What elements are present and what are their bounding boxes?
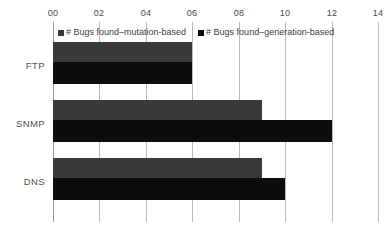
legend-swatch-icon-generation-based [198, 30, 204, 36]
bar-snmp-generation-based [53, 120, 332, 142]
gridline-14 [378, 22, 379, 222]
category-label-ftp: FTP [26, 60, 45, 71]
x-tick-label-10: 10 [280, 8, 291, 18]
x-tick-label-6: 06 [187, 8, 198, 18]
bar-chart: 00 02 04 06 08 10 12 14 FTP SNMP DNS [0, 0, 392, 230]
x-tick-label-8: 08 [234, 8, 245, 18]
x-tick-label-2: 02 [94, 8, 105, 18]
bar-dns-mutation-based [53, 158, 262, 178]
x-tick-label-4: 04 [141, 8, 152, 18]
chart-legend: # Bugs found–mutation-based # Bugs found… [58, 28, 334, 37]
bar-snmp-mutation-based [53, 100, 262, 120]
bar-dns-generation-based [53, 178, 285, 200]
legend-label-generation-based: # Bugs found–generation-based [206, 28, 334, 37]
x-tick-label-12: 12 [327, 8, 338, 18]
legend-entry-generation-based: # Bugs found–generation-based [198, 28, 334, 37]
legend-swatch-icon-mutation-based [58, 30, 64, 36]
gridline-12 [332, 22, 333, 222]
bar-ftp-generation-based [53, 62, 192, 84]
x-tick-label-14: 14 [373, 8, 384, 18]
legend-entry-mutation-based: # Bugs found–mutation-based [58, 28, 186, 37]
category-label-snmp: SNMP [16, 118, 45, 129]
bar-ftp-mutation-based [53, 42, 192, 62]
legend-label-mutation-based: # Bugs found–mutation-based [66, 28, 186, 37]
category-label-dns: DNS [24, 176, 45, 187]
x-tick-label-0: 00 [48, 8, 59, 18]
